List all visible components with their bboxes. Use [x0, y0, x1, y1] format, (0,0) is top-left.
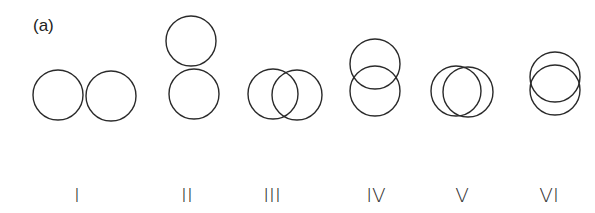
configuration-label: I — [74, 183, 80, 207]
configuration-vi: VI — [530, 52, 580, 207]
panel-label: (a) — [33, 16, 54, 35]
circle-shape — [350, 39, 400, 89]
circle-shape — [530, 52, 580, 102]
circle-shape — [530, 65, 580, 115]
circle-shape — [166, 16, 216, 66]
configuration-iv: IV — [350, 39, 400, 207]
circle-shape — [272, 70, 322, 120]
configurations: IIIIIIIVVVI — [33, 16, 580, 207]
configuration-label: VI — [539, 183, 559, 207]
configuration-v: V — [431, 66, 493, 207]
configuration-label: V — [455, 183, 469, 207]
configuration-label: III — [263, 183, 281, 207]
configuration-label: II — [181, 183, 193, 207]
configuration-iii: III — [248, 69, 322, 207]
configuration-i: I — [33, 70, 136, 207]
circle-shape — [431, 66, 481, 116]
configuration-ii: II — [166, 16, 219, 207]
configuration-label: IV — [366, 183, 386, 207]
two-circle-configurations-diagram: (a) IIIIIIIVVVI — [0, 0, 595, 213]
circle-shape — [248, 69, 298, 119]
circle-shape — [443, 67, 493, 117]
circle-shape — [33, 70, 83, 120]
circle-shape — [169, 69, 219, 119]
circle-shape — [86, 71, 136, 121]
circle-shape — [350, 66, 400, 116]
